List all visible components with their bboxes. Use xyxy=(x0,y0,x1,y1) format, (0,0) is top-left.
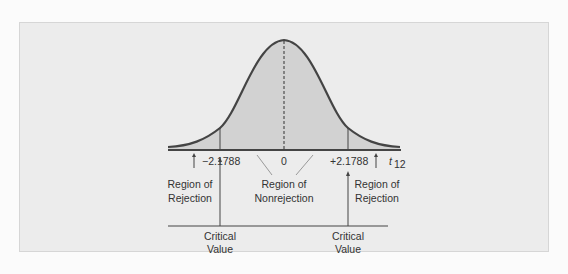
left-critical-label-1: Critical xyxy=(204,230,236,242)
center-region-label-2: Nonrejection xyxy=(255,192,314,204)
t-distribution-diagram: −2.1788 0 +2.1788 t 12 Region of Rejecti… xyxy=(0,0,568,274)
right-critical-label-1: Critical xyxy=(332,230,364,242)
left-critical-label-2: Value xyxy=(207,243,233,255)
axis-variable-label: t xyxy=(389,155,393,167)
left-region-label-2: Rejection xyxy=(168,192,212,204)
left-region-label-1: Region of xyxy=(168,178,213,190)
right-region-label-2: Rejection xyxy=(355,192,399,204)
arrow-head-icon xyxy=(374,153,378,157)
arrow-head-icon xyxy=(192,153,196,157)
right-critical-label-2: Value xyxy=(335,243,361,255)
center-region-label-1: Region of xyxy=(262,178,307,190)
nonrejection-arrow-right xyxy=(296,155,313,175)
right-region-label-1: Region of xyxy=(355,178,400,190)
axis-subscript: 12 xyxy=(394,158,406,170)
nonrejection-arrow-left xyxy=(257,155,272,175)
tick-center: 0 xyxy=(281,155,287,167)
tick-right: +2.1788 xyxy=(330,155,368,167)
arrow-head-icon xyxy=(346,171,350,176)
